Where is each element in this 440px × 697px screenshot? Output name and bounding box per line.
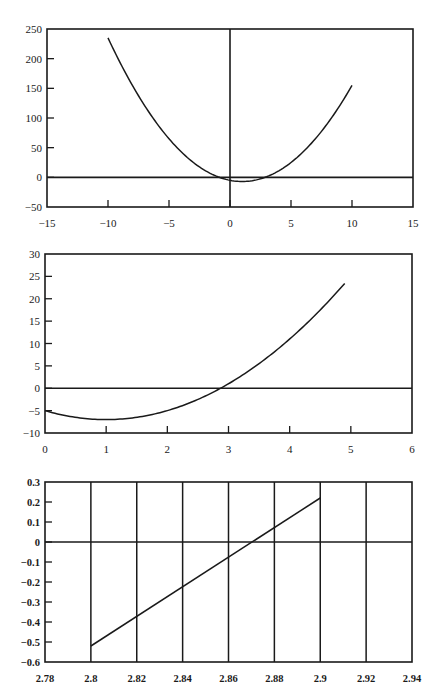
x-tick-label: 2: [165, 443, 171, 455]
chart-root-zoom: 0.30.20.10−0.1−0.2−0.3−0.4−0.5−0.62.782.…: [21, 477, 422, 684]
figure: 250200150100500−50−15−10−5051015 3025201…: [0, 0, 440, 697]
y-tick-label: 10: [29, 338, 41, 350]
y-tick-label: −0.2: [21, 577, 40, 588]
y-tick-label: 30: [29, 248, 41, 260]
y-tick-label: −0.6: [21, 657, 40, 668]
y-tick-label: 0: [35, 537, 40, 548]
x-tick-label: 0: [42, 443, 48, 455]
y-tick-label: −5: [28, 405, 40, 417]
x-tick-label: 2.86: [219, 673, 237, 684]
x-tick-label: 15: [408, 217, 420, 229]
x-tick-label: 2.94: [403, 673, 422, 684]
y-tick-label: 0.2: [27, 497, 40, 508]
y-tick-label: 200: [26, 53, 43, 65]
series-line: [45, 283, 345, 419]
x-tick-label: 2.8: [84, 673, 97, 684]
x-tick-label: 3: [226, 443, 232, 455]
y-tick-label: 0.3: [27, 477, 40, 488]
y-tick-label: 20: [29, 293, 41, 305]
chart-parabola-wide: 250200150100500−50−15−10−5051015: [25, 23, 419, 229]
x-tick-label: 2.92: [357, 673, 375, 684]
y-tick-label: −0.1: [21, 557, 40, 568]
x-tick-label: 2.78: [36, 673, 54, 684]
x-tick-label: 4: [287, 443, 293, 455]
x-tick-label: −15: [38, 217, 56, 229]
x-tick-label: 2.82: [128, 673, 146, 684]
y-tick-label: −50: [25, 201, 43, 213]
y-tick-label: 50: [31, 142, 43, 154]
x-tick-label: 2.88: [265, 673, 283, 684]
y-tick-label: 15: [29, 315, 41, 327]
x-tick-label: 0: [227, 217, 233, 229]
x-tick-label: 6: [409, 443, 415, 455]
y-tick-label: −0.5: [21, 637, 40, 648]
x-tick-label: 10: [347, 217, 359, 229]
x-tick-label: 2.9: [314, 673, 327, 684]
y-tick-label: −0.4: [21, 617, 41, 628]
x-tick-label: −10: [99, 217, 117, 229]
y-tick-label: 150: [26, 82, 43, 94]
y-tick-label: −10: [23, 427, 41, 439]
y-tick-label: −0.3: [21, 597, 40, 608]
series-line: [91, 498, 320, 646]
y-tick-label: 5: [35, 360, 41, 372]
y-tick-label: 0: [37, 171, 43, 183]
y-tick-label: 0: [35, 382, 41, 394]
y-tick-label: 250: [26, 23, 43, 35]
y-tick-label: 100: [26, 112, 43, 124]
x-tick-label: 1: [103, 443, 109, 455]
y-tick-label: 25: [29, 270, 41, 282]
plot-frame: [45, 254, 412, 433]
x-tick-label: 2.84: [173, 673, 192, 684]
y-tick-label: 0.1: [27, 517, 40, 528]
x-tick-label: −5: [163, 217, 175, 229]
x-tick-label: 5: [348, 443, 354, 455]
x-tick-label: 5: [288, 217, 294, 229]
chart-parabola-zoom: 302520151050−5−100123456: [23, 248, 415, 455]
